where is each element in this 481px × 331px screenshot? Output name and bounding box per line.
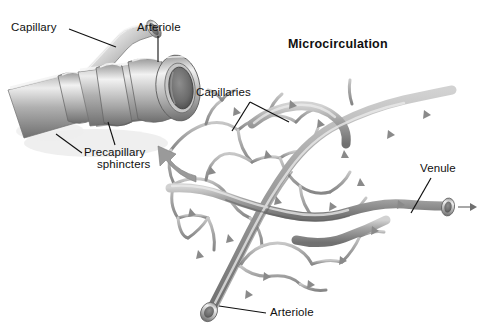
left-vessel-illustration: [8, 18, 204, 157]
flow-arrow: [226, 234, 234, 243]
flow-arrow: [329, 202, 337, 211]
outflow-arrow-upper-left: [158, 146, 196, 182]
flow-arrow: [387, 130, 395, 139]
capillary-seg: [178, 218, 188, 238]
capillary-seg: [206, 154, 252, 180]
capillary-seg: [312, 260, 342, 264]
flow-arrow: [233, 107, 241, 116]
leader-capillary: [69, 29, 116, 47]
flow-arrow: [341, 150, 349, 158]
label-capillary: Capillary: [11, 21, 57, 34]
flow-arrow: [245, 290, 253, 299]
leader-arteriole-bottom: [219, 306, 266, 313]
network-venule-opening: [440, 197, 456, 217]
venule-exit-arrow: [458, 203, 477, 211]
microcirculation-figure: Capillary Arteriole Precapillary sphinct…: [0, 0, 481, 331]
label-arteriole-bottom: Arteriole: [270, 306, 314, 319]
label-precapillary-line2: sphincters: [97, 158, 150, 171]
label-arteriole-left: Arteriole: [137, 21, 181, 34]
capillary-seg: [262, 243, 312, 264]
capillary-seg: [330, 172, 350, 192]
flow-arrow: [357, 178, 365, 186]
illustration-canvas: [0, 0, 481, 331]
flow-arrow: [317, 119, 325, 128]
flow-arrow: [196, 250, 204, 259]
exit-arrow-head: [470, 203, 477, 211]
flow-arrow: [263, 272, 271, 281]
figure-title: Microcirculation: [288, 38, 388, 51]
capillary-seg: [240, 266, 300, 284]
capillary-seg: [206, 100, 222, 124]
capillary-seg: [208, 218, 214, 250]
label-precapillary-line1: Precapillary: [84, 146, 145, 159]
flow-arrow: [423, 110, 431, 119]
label-capillaries: Capillaries: [196, 86, 251, 99]
capillary-seg: [349, 80, 352, 104]
capillary-seg: [171, 122, 238, 150]
microcirculation-network: [158, 80, 477, 325]
arrow-large: [158, 146, 196, 182]
label-venule: Venule: [420, 162, 456, 175]
capillary-seg: [188, 218, 208, 238]
venule-trunk: [170, 188, 444, 217]
